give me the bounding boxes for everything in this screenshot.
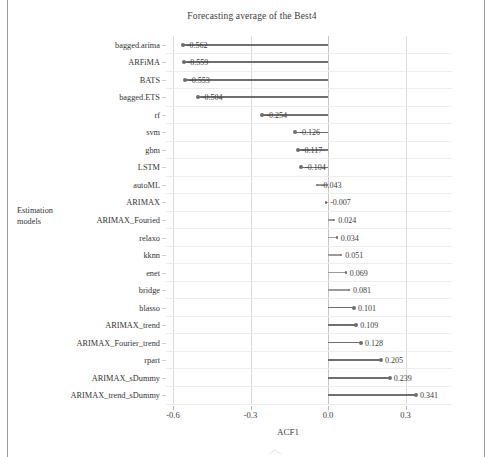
data-value-label: -0.553 [189, 75, 210, 84]
bar-end-dot [296, 148, 300, 152]
y-tick-mark [162, 132, 166, 133]
chart-row: autoML-0.043 [166, 176, 452, 194]
chart-row: kknn0.051 [166, 246, 452, 264]
data-value-label: -0.007 [330, 198, 351, 207]
y-tick-mark [162, 115, 166, 116]
y-tick-label: enet [0, 268, 160, 277]
bar-end-dot [414, 393, 418, 397]
figure-page: Forecasting average of the Best4 Estimat… [0, 0, 492, 457]
bar-end-dot [336, 236, 338, 238]
page-border-left [7, 0, 8, 457]
chart-row: svm-0.126 [166, 124, 452, 142]
y-tick-label: BATS [0, 75, 160, 84]
bar-end-dot [183, 78, 187, 82]
y-tick-label: ARIMAX_Fouried [0, 215, 160, 224]
y-tick-label: ARIMAX [0, 198, 160, 207]
y-tick-mark [162, 62, 166, 63]
bar-end-dot [359, 341, 363, 345]
x-tick-label: -0.3 [244, 410, 257, 420]
y-tick-label: bagged.arima [0, 40, 160, 49]
y-tick-mark [162, 325, 166, 326]
y-tick-label: ARIMAX_trend [0, 321, 160, 330]
bar-stem [328, 342, 361, 343]
data-value-label: 0.101 [358, 303, 376, 312]
data-value-label: -0.504 [202, 93, 223, 102]
bar-end-dot [354, 323, 358, 327]
data-value-label: 0.128 [365, 338, 383, 347]
chart-row: ARIMAX_trend0.109 [166, 316, 452, 334]
y-tick-mark [162, 80, 166, 81]
chart-row: relaxo0.034 [166, 229, 452, 247]
chart-row: bagged.ETS-0.504 [166, 89, 452, 107]
y-tick-label: rpart [0, 356, 160, 365]
bar-end-dot [260, 113, 264, 117]
data-value-label: -0.104 [305, 163, 326, 172]
bar-stem [328, 289, 349, 290]
plot-area: bagged.arima-0.562ARFiMA-0.559BATS-0.553… [166, 36, 452, 404]
y-tick-mark [162, 167, 166, 168]
bar-stem [328, 324, 356, 325]
chart-row: bridge0.081 [166, 281, 452, 299]
bar-end-dot [345, 271, 347, 273]
y-tick-label: ARIMAX_sDummy [0, 373, 160, 382]
bar-stem [328, 394, 416, 396]
chart-row: ARIMAX_trend_sDummy0.341 [166, 386, 452, 404]
y-tick-mark [162, 45, 166, 46]
y-tick-mark [162, 97, 166, 98]
x-tick-label: 0.3 [400, 410, 411, 420]
data-value-label: -0.126 [299, 128, 320, 137]
bar-end-dot [348, 289, 350, 291]
x-tick-label: -0.6 [166, 410, 179, 420]
x-axis: -0.6-0.30.00.3 [166, 406, 452, 422]
y-tick-label: LSTM [0, 163, 160, 172]
y-tick-label: gbm [0, 145, 160, 154]
y-tick-label: kknn [0, 251, 160, 260]
bar-end-dot [379, 358, 383, 362]
data-value-label: 0.024 [338, 215, 356, 224]
y-tick-label: autoML [0, 180, 160, 189]
data-value-label: 0.081 [353, 286, 371, 295]
scan-artifact-icon [268, 449, 282, 456]
bar-stem [328, 272, 346, 273]
y-tick-mark [162, 238, 166, 239]
chart-row: enet0.069 [166, 264, 452, 282]
y-tick-label: rf [0, 110, 160, 119]
y-tick-mark [162, 185, 166, 186]
y-tick-mark [162, 395, 166, 396]
y-tick-label: bagged.ETS [0, 93, 160, 102]
bar-end-dot [333, 219, 335, 221]
chart-row: gbm-0.117 [166, 141, 452, 159]
chart-row: LSTM-0.104 [166, 159, 452, 177]
x-tick-label: 0.0 [323, 410, 334, 420]
data-value-label: -0.559 [188, 58, 209, 67]
bar-end-dot [388, 376, 392, 380]
data-value-label: -0.117 [302, 145, 322, 154]
data-value-label: 0.051 [345, 251, 363, 260]
data-value-label: -0.562 [187, 40, 208, 49]
page-border-right [484, 0, 485, 457]
bar-stem [328, 377, 390, 379]
y-tick-label: bridge [0, 286, 160, 295]
bar-end-dot [293, 130, 297, 134]
data-value-label: -0.043 [321, 180, 342, 189]
data-value-label: 0.239 [394, 373, 412, 382]
chart-row: BATS-0.553 [166, 71, 452, 89]
chart-row: ARIMAX_sDummy0.239 [166, 369, 452, 387]
bar-end-dot [182, 60, 186, 64]
y-tick-mark [162, 343, 166, 344]
bar-end-dot [299, 165, 303, 169]
y-tick-mark [162, 360, 166, 361]
y-tick-mark [162, 220, 166, 221]
chart-row: ARIMAX-0.007 [166, 194, 452, 212]
chart-row: ARIMAX_Fourier_trend0.128 [166, 334, 452, 352]
bar-end-dot [316, 184, 318, 186]
bar-stem [328, 359, 381, 361]
y-tick-label: relaxo [0, 233, 160, 242]
y-tick-label: ARIMAX_trend_sDummy [0, 391, 160, 400]
x-axis-title-text: ACF1 [277, 427, 299, 437]
data-value-label: 0.069 [350, 268, 368, 277]
y-tick-mark [162, 308, 166, 309]
y-tick-mark [162, 150, 166, 151]
y-tick-mark [162, 378, 166, 379]
y-tick-mark [162, 255, 166, 256]
